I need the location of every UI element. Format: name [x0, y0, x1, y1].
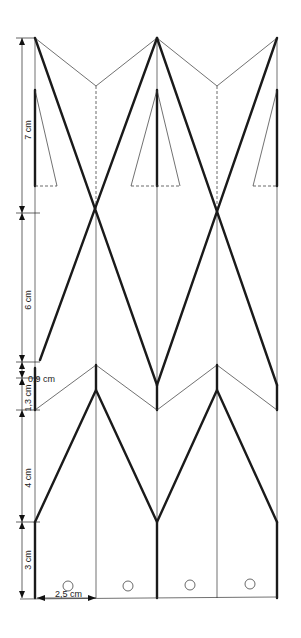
punch-holes — [63, 579, 255, 591]
dim-label-3cm: 3 cm — [23, 550, 33, 570]
folding-template-diagram: 7 cm 6 cm 0,9 cm 1,3 cm 4 cm 3 cm 2,5 cm — [0, 0, 301, 638]
dim-label-6cm: 6 cm — [23, 290, 33, 310]
bottom-thick-verticals — [35, 522, 277, 598]
dim-label-0-9cm: 0,9 cm — [28, 374, 55, 384]
dim-label-4cm: 4 cm — [23, 468, 33, 488]
top-zigzag — [35, 38, 277, 86]
dim-label-2-5cm: 2,5 cm — [55, 589, 82, 599]
dim-label-1-3cm: 1,3 cm — [23, 384, 33, 411]
dim-label-7cm: 7 cm — [23, 120, 33, 140]
